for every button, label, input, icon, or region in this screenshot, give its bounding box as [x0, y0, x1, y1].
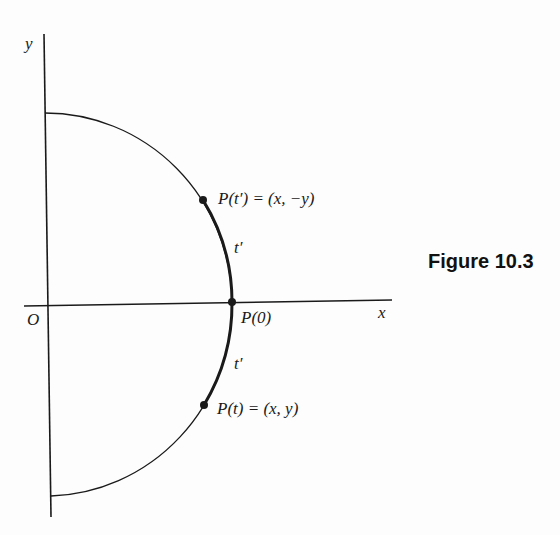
arc-segment-t-prime-upper: [203, 200, 232, 302]
point-p-zero: [228, 298, 236, 306]
figure-caption: Figure 10.3: [428, 250, 534, 272]
y-axis: [44, 34, 51, 517]
x-axis: [24, 300, 392, 306]
arc-segment-t-lower: [204, 302, 232, 405]
unit-circle-diagram: y x O P(t′) = (x, −y) P(0) P(t) = (x, y)…: [0, 0, 560, 535]
x-axis-label: x: [377, 303, 386, 322]
y-axis-label: y: [23, 34, 33, 53]
arc-label-upper: t′: [234, 238, 243, 257]
point-p-t-label: P(t) = (x, y): [216, 399, 299, 418]
origin-label: O: [27, 310, 39, 329]
point-p-t: [200, 401, 208, 409]
point-p-zero-label: P(0): [240, 308, 272, 327]
point-p-t-prime: [199, 196, 207, 204]
arc-label-lower: t′: [234, 354, 243, 373]
point-p-t-prime-label: P(t′) = (x, −y): [217, 189, 315, 208]
